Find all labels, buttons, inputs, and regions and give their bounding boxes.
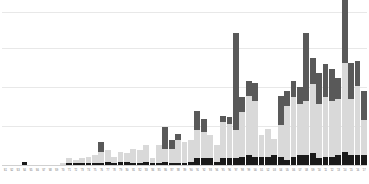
bar-segment-top	[303, 33, 309, 101]
bar-column	[265, 129, 271, 165]
bar-segment-top	[252, 83, 258, 101]
bar-segment-bottom	[246, 155, 252, 165]
bar-segment-middle	[278, 125, 284, 156]
bar-column	[188, 140, 194, 165]
bar-column	[233, 33, 239, 165]
bar-segment-middle	[335, 99, 341, 155]
bar-segment-middle	[220, 122, 226, 158]
bar-column	[156, 145, 162, 165]
bar-segment-top	[284, 91, 290, 106]
bar-segment-top	[348, 63, 354, 99]
bar-segment-middle	[118, 152, 124, 162]
bar-column	[246, 81, 252, 165]
bar-column	[323, 64, 329, 165]
bar-segment-middle	[239, 112, 245, 157]
bar-segment-middle	[361, 120, 367, 155]
bar-segment-top	[233, 33, 239, 130]
x-tick-label: '17	[361, 167, 367, 184]
bar-segment-top	[361, 91, 367, 121]
bar-segment-bottom	[323, 157, 329, 165]
bar-column	[98, 142, 104, 165]
bar-segment-bottom	[355, 155, 361, 165]
bar-segment-bottom	[207, 158, 213, 165]
bar-segment-bottom	[220, 158, 226, 165]
bar-segment-middle	[227, 124, 233, 159]
bar-column	[284, 91, 290, 165]
bar-column	[150, 158, 156, 165]
bar-segment-middle	[207, 135, 213, 158]
bar-segment-top	[291, 81, 297, 98]
bar-column	[86, 157, 92, 165]
bar-segment-bottom	[303, 155, 309, 165]
bar-segment-middle	[124, 153, 130, 161]
bar-column	[79, 158, 85, 165]
bar-segment-middle	[316, 104, 322, 158]
bar-segment-middle	[233, 130, 239, 158]
bar-segment-top	[323, 64, 329, 97]
bar-segment-bottom	[271, 155, 277, 165]
bar-segment-middle	[86, 157, 92, 164]
bar-segment-middle	[194, 130, 200, 158]
bar-segment-middle	[284, 106, 290, 160]
bar-segment-top	[169, 140, 175, 148]
bar-segment-middle	[348, 99, 354, 155]
bar-segment-middle	[265, 129, 271, 157]
bar-segment-middle	[130, 149, 136, 164]
bar-segment-bottom	[252, 157, 258, 165]
bar-segment-bottom	[342, 152, 348, 165]
bar-segment-top	[310, 58, 316, 84]
bar-segment-middle	[143, 145, 149, 162]
bar-segment-middle	[271, 139, 277, 156]
bar-column	[259, 135, 265, 165]
bar-segment-top	[239, 97, 245, 112]
bar-segment-middle	[156, 145, 162, 163]
bar-segment-middle	[323, 97, 329, 156]
bar-segment-bottom	[265, 157, 271, 165]
bar-segment-middle	[246, 96, 252, 155]
bar-column	[207, 135, 213, 165]
bar-column	[316, 73, 322, 165]
bar-column	[252, 83, 258, 165]
bar-segment-middle	[175, 140, 181, 163]
bar-segment-bottom	[348, 155, 354, 165]
bar-segment-top	[162, 127, 168, 148]
bar-segment-bottom	[239, 157, 245, 165]
bar-column	[297, 87, 303, 165]
bar-segment-middle	[105, 150, 111, 162]
bar-segment-top	[227, 117, 233, 124]
bar-segment-top	[316, 73, 322, 104]
bar-segment-top	[98, 142, 104, 152]
bar-column	[329, 69, 335, 165]
bar-segment-middle	[169, 149, 175, 164]
bar-segment-bottom	[227, 158, 233, 165]
bar-segment-top	[335, 78, 341, 99]
bar-column	[271, 139, 277, 165]
bar-column	[137, 150, 143, 165]
stacked-bar-chart: '61'62'63'64'65'66'67'68'69'70'71'72'73'…	[0, 0, 369, 184]
bar-column	[355, 61, 361, 165]
bar-segment-bottom	[201, 158, 207, 165]
bar-column	[310, 58, 316, 165]
bar-segment-bottom	[310, 153, 316, 165]
bar-segment-top	[246, 81, 252, 96]
bar-column	[239, 97, 245, 165]
bar-column	[143, 145, 149, 165]
bar-column	[220, 116, 226, 165]
bar-segment-top	[278, 96, 284, 126]
bar-column	[111, 157, 117, 165]
bar-column	[291, 81, 297, 165]
bar-segment-bottom	[329, 157, 335, 165]
bar-segment-bottom	[297, 155, 303, 165]
x-axis-tick-labels: '61'62'63'64'65'66'67'68'69'70'71'72'73'…	[0, 167, 369, 184]
bar-segment-middle	[329, 101, 335, 157]
bar-series-group	[0, 0, 369, 165]
bar-segment-bottom	[233, 158, 239, 165]
plot-area	[0, 0, 369, 166]
bar-segment-middle	[214, 145, 220, 162]
bar-segment-middle	[297, 104, 303, 155]
bar-segment-bottom	[259, 157, 265, 165]
bar-segment-top	[194, 111, 200, 131]
bar-segment-top	[297, 87, 303, 104]
bar-segment-middle	[137, 150, 143, 163]
bar-column	[303, 33, 309, 165]
